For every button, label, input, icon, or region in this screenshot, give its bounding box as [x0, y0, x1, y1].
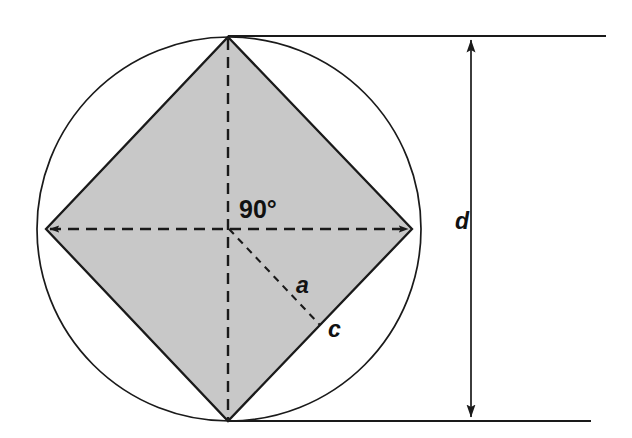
- diagram-canvas: [0, 0, 632, 438]
- angle-label-90-degrees: 90°: [239, 197, 277, 222]
- side-label-c: c: [328, 318, 341, 341]
- apothem-label-a: a: [296, 274, 309, 297]
- diameter-label-d: d: [455, 210, 469, 233]
- geometry-diagram: 90° a c d: [0, 0, 632, 438]
